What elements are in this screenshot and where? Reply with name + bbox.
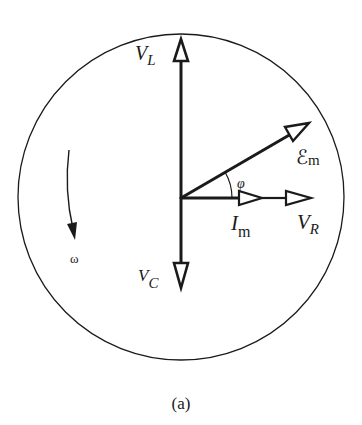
label-vr: VR (297, 210, 319, 237)
phasor-im (181, 191, 262, 205)
label-im: Im (230, 211, 251, 240)
label-phi: φ (237, 176, 245, 191)
phasor-diagram: VL VC ℰm Im VR φ ω (a) (0, 0, 362, 425)
rotation-arrow-icon (67, 150, 77, 240)
phasor-vl (174, 39, 188, 199)
arrowhead-vl-icon (174, 39, 188, 61)
phi-angle-arc (225, 172, 232, 198)
phasor-vc (174, 197, 188, 288)
figure-caption: (a) (172, 394, 191, 413)
phasor-em (181, 123, 309, 198)
label-em: ℰm (296, 146, 320, 168)
label-vc: VC (138, 266, 159, 291)
phasor-vr (262, 191, 311, 205)
arrowhead-im-icon (239, 191, 262, 205)
arrowhead-vr-icon (286, 191, 311, 205)
label-vl: VL (135, 42, 156, 68)
label-omega: ω (70, 251, 79, 266)
arrowhead-vc-icon (174, 263, 188, 288)
arrowhead-em-icon (285, 123, 309, 141)
